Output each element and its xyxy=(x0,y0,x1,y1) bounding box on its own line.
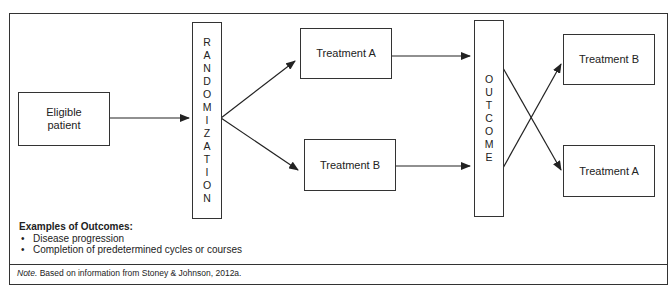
examples-item-text: Completion of predetermined cycles or co… xyxy=(33,244,242,255)
randomization-letter: A xyxy=(203,140,210,153)
eligible-label-line1: Eligible xyxy=(46,106,81,119)
randomization-letter: T xyxy=(204,153,210,166)
outcome-letter: T xyxy=(486,99,492,112)
outcome-letter: U xyxy=(485,86,493,99)
randomization-box: R A N D O M I Z A T I O N xyxy=(192,22,222,219)
eligible-label-line2: patient xyxy=(46,119,81,132)
outcome-letter: O xyxy=(485,125,493,138)
randomization-letter: M xyxy=(203,101,212,114)
randomization-letter: N xyxy=(203,192,211,205)
outcome-letter: M xyxy=(485,138,494,151)
randomization-letter: R xyxy=(203,36,211,49)
outcome-letter: E xyxy=(485,151,492,164)
examples-list: Disease progression Completion of predet… xyxy=(19,233,242,256)
arrow-outcome-to-treatment-a xyxy=(503,68,561,170)
outcome-examples: Examples of Outcomes: Disease progressio… xyxy=(19,221,242,256)
examples-list-item: Disease progression xyxy=(21,233,242,245)
treatment-b-first-label: Treatment B xyxy=(320,159,380,172)
randomization-letter: A xyxy=(203,49,210,62)
note-text: Based on information from Stoney & Johns… xyxy=(37,268,241,278)
randomization-letter: N xyxy=(203,62,211,75)
randomization-letter: O xyxy=(203,88,211,101)
randomization-letter: I xyxy=(206,114,209,127)
outcome-letter: O xyxy=(485,73,493,86)
treatment-b-second-label: Treatment B xyxy=(579,53,639,66)
arrow-outcome-to-treatment-b xyxy=(503,64,561,168)
randomization-letter: I xyxy=(206,166,209,179)
treatment-a-first-box: Treatment A xyxy=(300,28,392,79)
arrow-randomization-to-treatment-a xyxy=(221,61,295,118)
note-label: Note. xyxy=(17,268,37,278)
outcome-letter: C xyxy=(485,112,493,125)
examples-title: Examples of Outcomes: xyxy=(19,221,242,233)
outcome-box: O U T C O M E xyxy=(474,20,504,217)
treatment-a-second-box: Treatment A xyxy=(563,145,655,197)
randomization-letter: O xyxy=(203,179,211,192)
examples-list-item: Completion of predetermined cycles or co… xyxy=(21,244,242,256)
eligible-patient-box: Eligible patient xyxy=(18,92,110,146)
treatment-b-second-box: Treatment B xyxy=(563,34,655,85)
examples-item-text: Disease progression xyxy=(33,233,124,244)
arrow-randomization-to-treatment-b xyxy=(221,118,298,170)
treatment-a-first-label: Treatment A xyxy=(316,47,376,60)
randomization-letter: Z xyxy=(204,127,210,140)
source-note: Note. Based on information from Stoney &… xyxy=(17,268,241,278)
randomization-letter: D xyxy=(203,75,211,88)
treatment-b-first-box: Treatment B xyxy=(304,139,396,191)
treatment-a-second-label: Treatment A xyxy=(579,165,639,178)
